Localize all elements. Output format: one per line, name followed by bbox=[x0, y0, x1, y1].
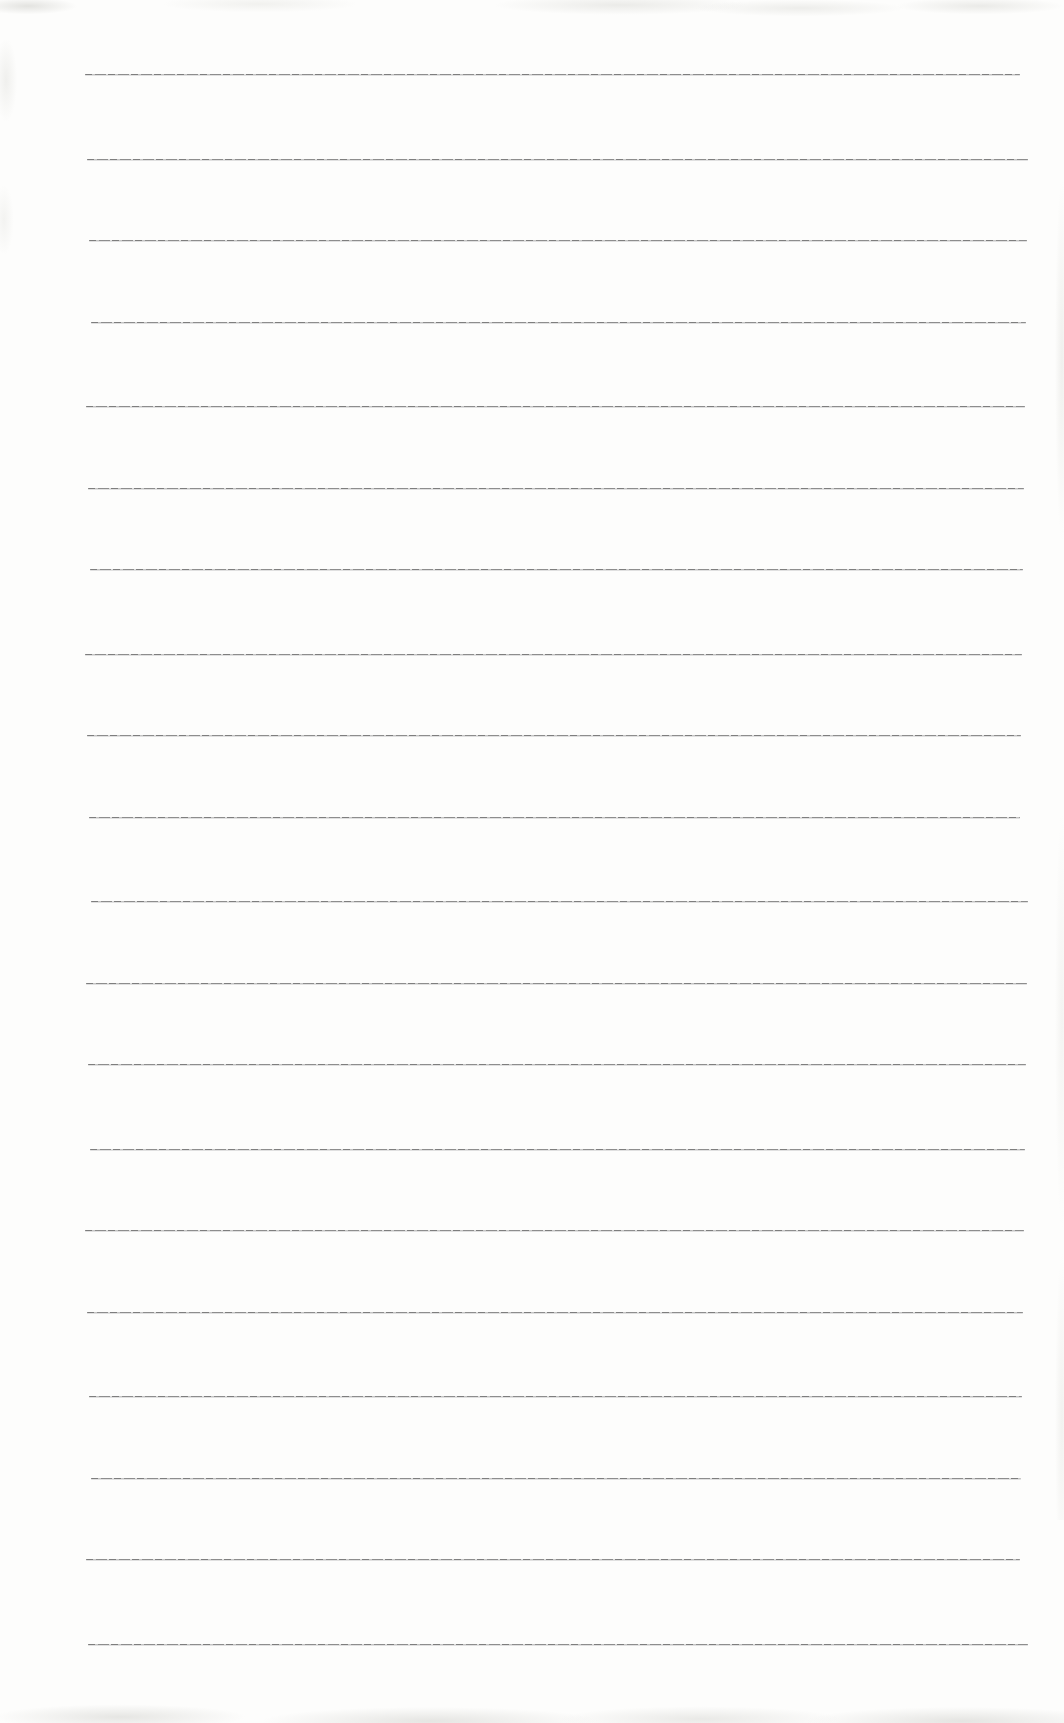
ruled-line bbox=[85, 1230, 1024, 1231]
ruled-line bbox=[86, 983, 1027, 984]
ruled-line bbox=[91, 322, 1026, 323]
ruled-line bbox=[86, 1559, 1020, 1560]
ruled-line bbox=[87, 159, 1028, 160]
ruled-line bbox=[87, 735, 1021, 736]
ruled-line bbox=[88, 1064, 1026, 1065]
ruled-line bbox=[89, 1396, 1022, 1397]
ruled-line bbox=[91, 1478, 1021, 1479]
ruled-line bbox=[88, 1644, 1028, 1645]
ruled-line bbox=[90, 1149, 1025, 1150]
ruled-line bbox=[85, 74, 1020, 75]
scanned-notebook-page bbox=[0, 0, 1064, 1723]
ruled-line bbox=[90, 569, 1023, 570]
ruled-line bbox=[88, 488, 1024, 489]
ruled-line bbox=[89, 240, 1027, 241]
ruled-line bbox=[85, 654, 1022, 655]
ruled-line bbox=[87, 1312, 1023, 1313]
ruled-line bbox=[91, 901, 1028, 902]
ruled-line bbox=[86, 406, 1025, 407]
ruled-lines-area bbox=[0, 0, 1064, 1723]
ruled-line bbox=[89, 817, 1020, 818]
